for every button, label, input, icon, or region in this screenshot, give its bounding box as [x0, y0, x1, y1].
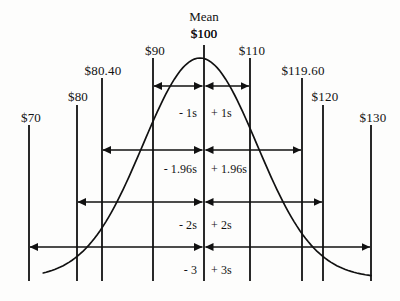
interval-arrow-group — [30, 86, 370, 247]
axis-label-tick-119-60: $119.60 — [281, 64, 324, 77]
mean-caption: Mean — [189, 10, 219, 23]
axis-label-tick-80: $80 — [68, 90, 88, 103]
sigma-label-two-sigma-positive: + 2s — [211, 219, 232, 231]
axis-label-tick-80-40: $80.40 — [85, 64, 122, 77]
sigma-label-one-sigma-negative: - 1s — [179, 107, 197, 119]
sigma-label-two-sigma-negative: - 2s — [179, 219, 197, 231]
normal-distribution-diagram: Mean $100 $70$80$80.40$90$100$110$119.60… — [0, 0, 400, 301]
sigma-label-one-point-nine-six-sigma-negative: - 1.96s — [164, 163, 197, 175]
axis-label-tick-100: $100 — [191, 27, 218, 40]
tick-line-group — [29, 45, 371, 281]
axis-label-tick-130: $130 — [360, 111, 387, 124]
sigma-label-three-sigma-negative: - 3 — [184, 264, 197, 276]
sigma-label-three-sigma-positive: + 3s — [211, 264, 232, 276]
sigma-label-one-sigma-positive: + 1s — [211, 107, 232, 119]
axis-label-tick-110: $110 — [239, 44, 265, 57]
diagram-canvas — [0, 0, 400, 301]
sigma-label-one-point-nine-six-sigma-positive: + 1.96s — [211, 163, 247, 175]
axis-label-tick-120: $120 — [312, 90, 339, 103]
axis-label-tick-70: $70 — [21, 111, 41, 124]
axis-label-tick-90: $90 — [145, 44, 165, 57]
